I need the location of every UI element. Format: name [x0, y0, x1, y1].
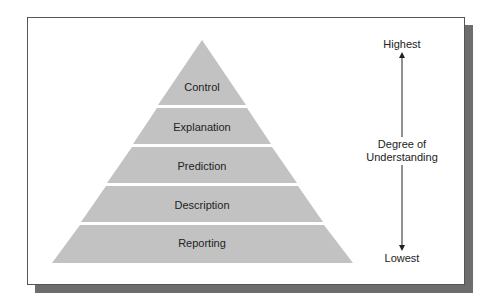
pyramid-band-control — [158, 40, 246, 105]
level-label-control: Control — [132, 81, 272, 94]
axis-top-label: Highest — [352, 38, 452, 51]
level-label-prediction: Prediction — [132, 160, 272, 173]
axis-middle-label-line1: Degree of — [352, 138, 452, 151]
axis-middle-label-line2: Understanding — [352, 151, 452, 164]
axis-bottom-label: Lowest — [352, 252, 452, 265]
level-label-description: Description — [132, 199, 272, 212]
level-label-reporting: Reporting — [132, 237, 272, 250]
level-label-explanation: Explanation — [132, 121, 272, 134]
